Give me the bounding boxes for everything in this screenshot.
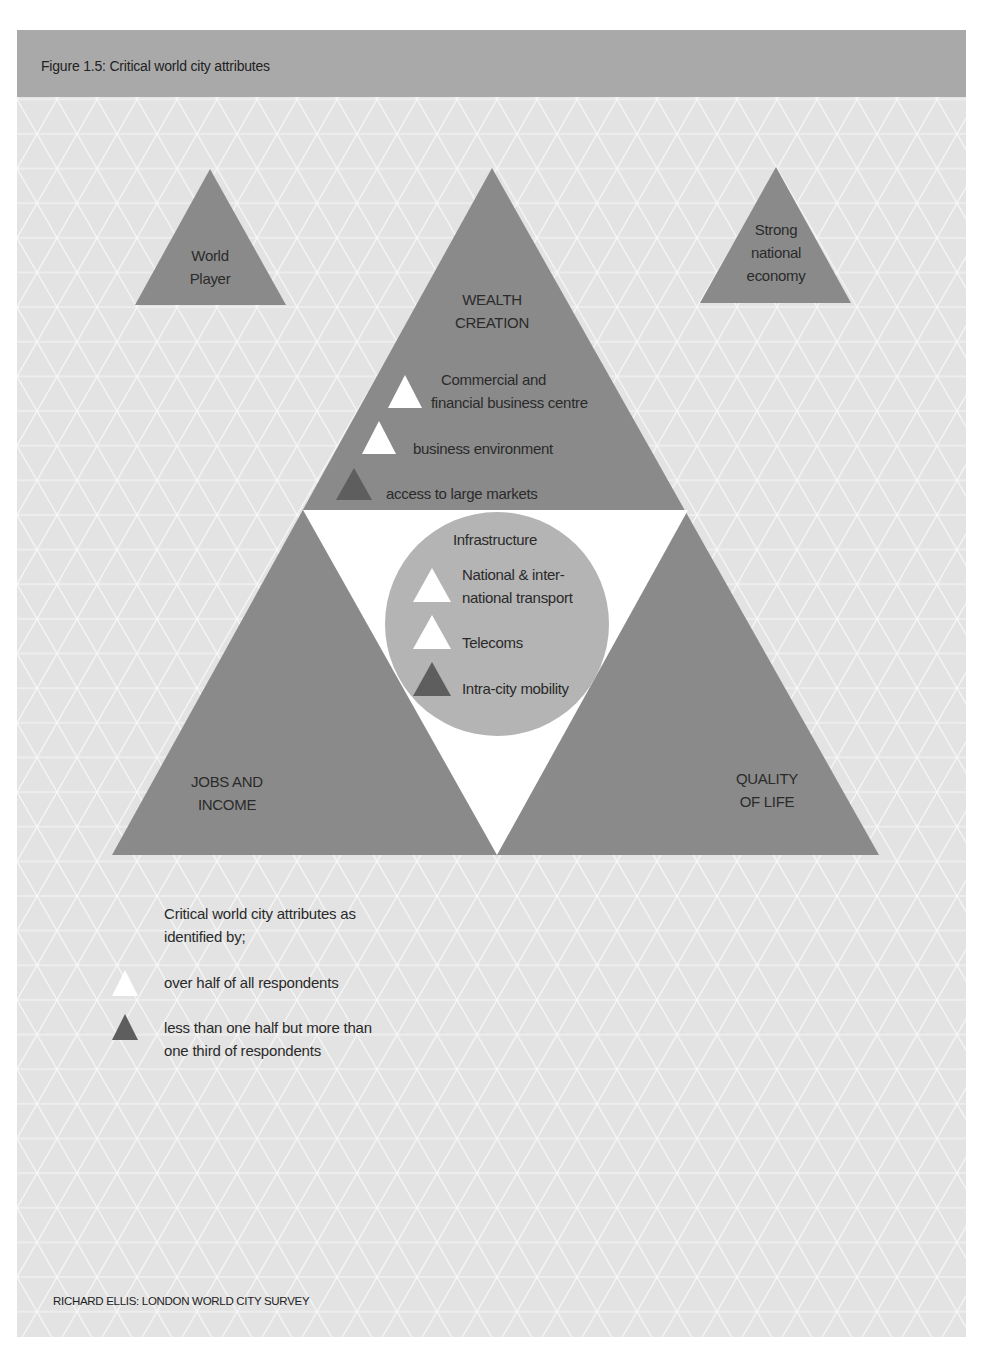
- label-line: WEALTH: [432, 288, 552, 311]
- label-line: OF LIFE: [717, 790, 817, 813]
- legend-third-to-half-icon: [112, 1014, 138, 1040]
- label-line: economy: [731, 264, 821, 287]
- figure-source: RICHARD ELLIS: LONDON WORLD CITY SURVEY: [53, 1295, 309, 1307]
- legend-third-to-half-label: less than one half but more than one thi…: [164, 1016, 372, 1062]
- wealth-item-large-markets: access to large markets: [386, 482, 538, 505]
- quality-of-life-label: QUALITY OF LIFE: [717, 767, 817, 813]
- label-line: Intra-city mobility: [462, 677, 569, 700]
- infrastructure-title: Infrastructure: [435, 528, 555, 551]
- label-line: financial business centre: [431, 391, 588, 414]
- label-line: Player: [170, 267, 250, 290]
- label-line: business environment: [413, 437, 553, 460]
- label-line: National & inter-: [462, 563, 573, 586]
- label-line: one third of respondents: [164, 1039, 372, 1062]
- figure-page: Figure 1.5: Critical world city attribut…: [17, 30, 966, 1337]
- strong-economy-label: Strong national economy: [731, 218, 821, 287]
- label-line: Telecoms: [462, 631, 523, 654]
- wealth-item-business-environment: business environment: [413, 437, 553, 460]
- label-line: JOBS AND: [177, 770, 277, 793]
- legend-intro: Critical world city attributes as identi…: [164, 902, 356, 948]
- label-line: World: [170, 244, 250, 267]
- infra-item-telecoms: Telecoms: [462, 631, 523, 654]
- label-line: Critical world city attributes as: [164, 902, 356, 925]
- label-line: QUALITY: [717, 767, 817, 790]
- infra-item-intra-city: Intra-city mobility: [462, 677, 569, 700]
- label-line: access to large markets: [386, 482, 538, 505]
- wealth-item-commercial: Commercial and financial business centre: [431, 368, 588, 414]
- label-line: over half of all respondents: [164, 971, 339, 994]
- label-line: CREATION: [432, 311, 552, 334]
- legend-over-half-label: over half of all respondents: [164, 971, 339, 994]
- wealth-creation-title: WEALTH CREATION: [432, 288, 552, 334]
- label-line: Strong: [731, 218, 821, 241]
- label-line: less than one half but more than: [164, 1016, 372, 1039]
- label-line: national transport: [462, 586, 573, 609]
- label-line: INCOME: [177, 793, 277, 816]
- label-line: national: [731, 241, 821, 264]
- label-line: Commercial and: [431, 368, 588, 391]
- world-player-label: World Player: [170, 244, 250, 290]
- label-line: identified by;: [164, 925, 356, 948]
- jobs-income-label: JOBS AND INCOME: [177, 770, 277, 816]
- legend-over-half-icon: [112, 970, 138, 996]
- infra-item-transport: National & inter- national transport: [462, 563, 573, 609]
